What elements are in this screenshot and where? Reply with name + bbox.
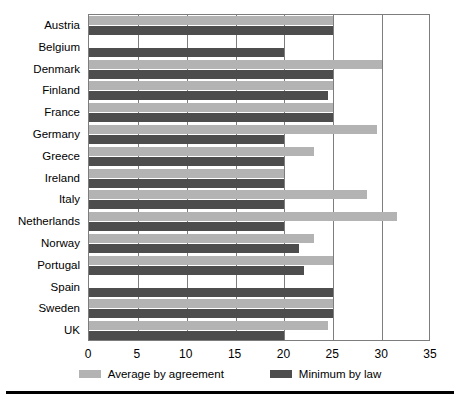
x-tick-label-15: 15 — [228, 347, 241, 361]
bar-uk-minimum — [89, 331, 284, 340]
bar-sweden-minimum — [89, 309, 333, 318]
chart-legend: Average by agreementMinimum by law — [0, 365, 460, 383]
x-tick-label-35: 35 — [423, 347, 436, 361]
legend-swatch-min — [270, 370, 292, 378]
category-label-finland: Finland — [42, 84, 80, 96]
bar-austria-minimum — [89, 26, 333, 35]
bar-austria-average — [89, 16, 333, 25]
bar-norway-average — [89, 234, 314, 243]
bar-belgium-minimum — [89, 48, 284, 57]
legend-item: Average by agreement — [79, 368, 224, 381]
category-label-norway: Norway — [41, 237, 80, 249]
bar-netherlands-average — [89, 212, 397, 221]
category-label-sweden: Sweden — [38, 302, 80, 314]
category-label-uk: UK — [64, 324, 80, 336]
bar-finland-average — [89, 81, 333, 90]
bar-germany-minimum — [89, 135, 284, 144]
bar-row — [89, 189, 429, 211]
legend-item: Minimum by law — [270, 368, 381, 381]
bar-row — [89, 255, 429, 277]
bar-chart: AustriaBelgiumDenmarkFinlandFranceGerman… — [0, 0, 460, 401]
x-tick-label-25: 25 — [326, 347, 339, 361]
bar-ireland-minimum — [89, 179, 284, 188]
category-label-france: France — [44, 106, 80, 118]
bar-norway-minimum — [89, 244, 299, 253]
x-tick-label-30: 30 — [374, 347, 387, 361]
bar-row — [89, 277, 429, 299]
category-label-germany: Germany — [33, 128, 80, 140]
category-label-greece: Greece — [42, 150, 80, 162]
bar-row — [89, 298, 429, 320]
bar-row — [89, 102, 429, 124]
bar-portugal-minimum — [89, 266, 304, 275]
bar-germany-average — [89, 125, 377, 134]
category-label-austria: Austria — [44, 19, 80, 31]
category-label-belgium: Belgium — [38, 41, 80, 53]
bar-netherlands-minimum — [89, 222, 284, 231]
bottom-divider-rule — [6, 391, 454, 394]
bar-row — [89, 59, 429, 81]
bar-row — [89, 211, 429, 233]
category-label-ireland: Ireland — [45, 172, 80, 184]
bar-greece-average — [89, 147, 314, 156]
x-tick-label-5: 5 — [134, 347, 141, 361]
bar-ireland-average — [89, 169, 284, 178]
category-axis-labels: AustriaBelgiumDenmarkFinlandFranceGerman… — [0, 14, 84, 341]
bar-uk-average — [89, 321, 328, 330]
bar-row — [89, 168, 429, 190]
bar-sweden-average — [89, 299, 333, 308]
category-label-netherlands: Netherlands — [18, 215, 80, 227]
category-label-italy: Italy — [59, 193, 80, 205]
legend-label: Minimum by law — [299, 368, 381, 381]
bar-portugal-average — [89, 256, 333, 265]
bar-denmark-average — [89, 60, 382, 69]
bar-denmark-minimum — [89, 70, 333, 79]
bar-row — [89, 15, 429, 37]
legend-swatch-avg — [79, 370, 101, 378]
bar-row — [89, 146, 429, 168]
bar-row — [89, 80, 429, 102]
bar-greece-minimum — [89, 157, 284, 166]
x-tick-label-0: 0 — [85, 347, 92, 361]
bar-france-minimum — [89, 113, 333, 122]
x-tick-label-20: 20 — [277, 347, 290, 361]
bar-row — [89, 233, 429, 255]
bar-france-average — [89, 103, 333, 112]
x-tick-label-10: 10 — [179, 347, 192, 361]
category-label-spain: Spain — [51, 281, 80, 293]
category-label-denmark: Denmark — [33, 63, 80, 75]
bar-row — [89, 37, 429, 59]
bar-row — [89, 320, 429, 342]
legend-label: Average by agreement — [108, 368, 224, 381]
bar-rows — [89, 15, 429, 340]
bar-spain-minimum — [89, 288, 333, 297]
bar-finland-minimum — [89, 91, 328, 100]
x-axis-tick-labels: 05101520253035 — [88, 343, 430, 363]
plot-area — [88, 14, 430, 341]
category-label-portugal: Portugal — [37, 259, 80, 271]
bar-row — [89, 124, 429, 146]
bar-italy-average — [89, 190, 367, 199]
bar-italy-minimum — [89, 200, 284, 209]
